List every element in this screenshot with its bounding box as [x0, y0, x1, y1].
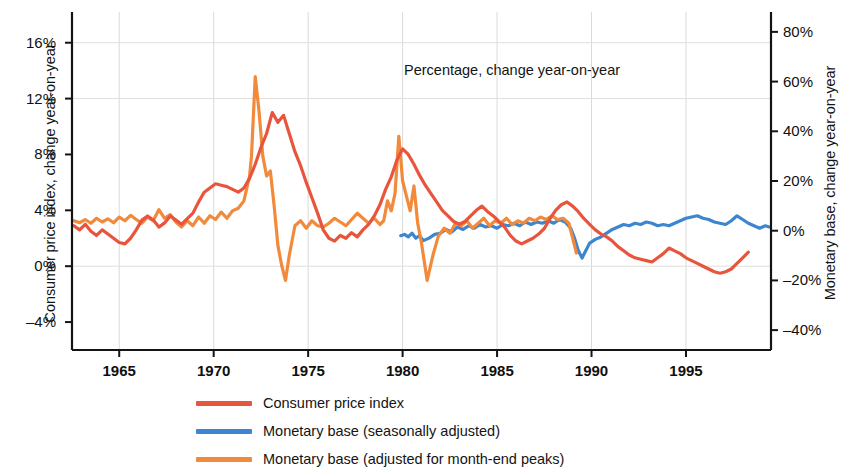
- x-axis-tick-label: 1975: [273, 362, 343, 379]
- y-axis-tick-label-left: 16%: [4, 34, 56, 51]
- x-axis-tick-label: 1965: [84, 362, 154, 379]
- legend-label: Monetary base (adjusted for month-end pe…: [263, 451, 564, 467]
- y-axis-tick-label-left: 12%: [4, 90, 56, 107]
- legend-item[interactable]: Monetary base (adjusted for month-end pe…: [196, 448, 564, 470]
- legend-item[interactable]: Consumer price index: [196, 392, 564, 414]
- y-axis-tick-label-right: –20%: [783, 271, 821, 288]
- y-axis-tick-label-right: 20%: [783, 172, 813, 189]
- y-axis-tick-label-right: 60%: [783, 73, 813, 90]
- axis-ticks: [65, 32, 778, 357]
- x-axis-tick-label: 1985: [462, 362, 532, 379]
- legend-item[interactable]: Monetary base (seasonally adjusted): [196, 420, 564, 442]
- chart-container: Consumer price index, change year-on-yea…: [0, 0, 849, 473]
- legend-swatch-icon: [196, 401, 252, 406]
- legend-swatch-icon: [196, 457, 252, 462]
- series-line-monetary-base-adjusted-for-month-end-peaks: [74, 77, 577, 281]
- legend-swatch-icon: [196, 429, 252, 434]
- x-axis-tick-label: 1995: [651, 362, 721, 379]
- y-axis-tick-label-right: 80%: [783, 23, 813, 40]
- y-axis-tick-label-left: –4%: [4, 313, 56, 330]
- y-axis-tick-label-right: 0%: [783, 222, 805, 239]
- y-axis-tick-label-right: 40%: [783, 122, 813, 139]
- y-axis-tick-label-left: 4%: [4, 201, 56, 218]
- x-axis-tick-label: 1970: [179, 362, 249, 379]
- y-axis-tick-label-left: 8%: [4, 145, 56, 162]
- series-line-consumer-price-index: [74, 113, 748, 274]
- x-axis-tick-label: 1990: [557, 362, 627, 379]
- y-axis-tick-label-right: –40%: [783, 321, 821, 338]
- legend-label: Monetary base (seasonally adjusted): [263, 423, 500, 439]
- chart-legend: Consumer price indexMonetary base (seaso…: [196, 392, 564, 470]
- legend-label: Consumer price index: [263, 395, 404, 411]
- y-axis-tick-label-left: 0%: [4, 257, 56, 274]
- x-axis-tick-label: 1980: [368, 362, 438, 379]
